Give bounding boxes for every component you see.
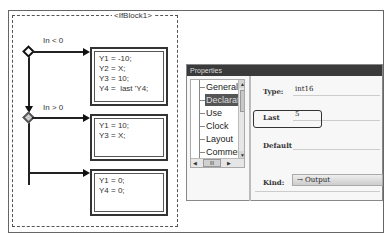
panel-splitter[interactable] xyxy=(249,76,251,201)
tree-item-comment[interactable]: Comment xyxy=(205,146,238,158)
spine-line-1 xyxy=(28,55,30,111)
scroll-thumb[interactable] xyxy=(240,90,245,112)
type-label: Type: xyxy=(263,87,283,96)
arrow-right-icon xyxy=(83,114,90,122)
kind-select[interactable]: → Output xyxy=(292,174,383,186)
tree-item-general[interactable]: General xyxy=(205,81,238,93)
statement: Y3 = 10; xyxy=(99,74,159,84)
arrow-right-icon xyxy=(83,48,90,56)
last-field-highlight xyxy=(253,110,322,128)
tree-item-layout[interactable]: Layout xyxy=(205,133,233,145)
statement: Y4 = last 'Y4; xyxy=(99,84,159,94)
spine-line-2 xyxy=(28,122,30,185)
tree-item-use[interactable]: Use xyxy=(205,107,222,119)
scroll-up-icon[interactable]: ▲ xyxy=(239,80,245,88)
condition-label-2: In > 0 xyxy=(43,103,63,112)
statement: Y1 = 0; xyxy=(99,176,159,186)
tree-item-clock[interactable]: Clock xyxy=(205,120,229,132)
type-value[interactable]: int16 xyxy=(293,83,380,96)
hscroll-thumb[interactable]: III xyxy=(203,159,221,167)
kind-label: Kind: xyxy=(263,178,284,187)
scroll-left-icon[interactable]: ◀ xyxy=(193,159,197,167)
divider xyxy=(255,191,380,192)
statement: Y1 = 10; xyxy=(99,121,159,131)
statement: Y2 = X; xyxy=(99,64,159,74)
branch-line-2 xyxy=(32,117,84,119)
properties-tree: General Declaration Use Clock Layout Com… xyxy=(190,79,245,168)
if-block-label: <IfBlock1> xyxy=(112,11,154,20)
statement: Y1 = -10; xyxy=(99,54,159,64)
branch-line-1 xyxy=(32,51,84,53)
default-input[interactable] xyxy=(293,137,380,150)
scroll-right-icon[interactable]: ▶ xyxy=(227,159,231,167)
tree-connector xyxy=(199,80,200,160)
action-box-3[interactable]: Y1 = 0; Y4 = 0; xyxy=(90,169,168,216)
branch-line-3 xyxy=(28,172,84,174)
action-box-2[interactable]: Y1 = 10; Y3 = X; xyxy=(90,114,168,161)
vertical-scrollbar[interactable]: ▲ ▼ xyxy=(238,80,245,159)
properties-title: Properties xyxy=(187,65,382,76)
statement: Y4 = 0; xyxy=(99,186,159,196)
action-box-1[interactable]: Y1 = -10; Y2 = X; Y3 = 10; Y4 = last 'Y4… xyxy=(90,47,168,106)
horizontal-scrollbar[interactable]: ◀ III ▶ xyxy=(191,158,244,167)
default-label: Default xyxy=(263,141,292,150)
tree-item-declaration[interactable]: Declaration xyxy=(205,94,238,106)
statement: Y3 = X; xyxy=(99,131,159,141)
condition-label-1: In < 0 xyxy=(43,36,63,45)
arrow-right-icon xyxy=(83,169,90,177)
